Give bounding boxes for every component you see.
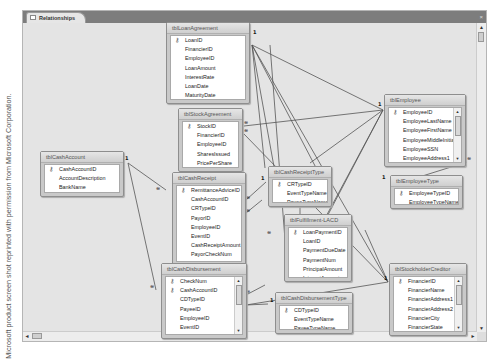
scroll-right-icon[interactable]: ► [469,332,477,340]
field-row[interactable]: CashDisbursementAmou [166,332,242,335]
field-row[interactable]: EventTypeName [280,315,348,324]
field-row[interactable]: FinancierAddress1 [394,295,462,304]
vertical-scrollbar[interactable]: ▲ ▼ [476,23,486,332]
field-row[interactable]: SharesIssued [183,150,238,159]
field-row[interactable]: BankName [45,183,119,192]
scroll-down-icon[interactable]: ▼ [235,327,242,334]
field-row[interactable]: ⚷LoanID [171,36,245,45]
scroll-thumb[interactable] [455,116,461,136]
field-row[interactable]: ⚷CheckNum [166,277,242,286]
field-row[interactable]: FinancierName [394,286,462,295]
field-row[interactable]: FinancierAddress2 [394,305,462,314]
field-list-scrollbar[interactable]: ▲ ▼ [234,277,242,334]
table-cash-account[interactable]: tblCashAccount ⚷CashAccountID AccountDes… [40,151,124,197]
field-row[interactable]: ⚷RemittanceAdviceID [177,186,241,195]
table-employee[interactable]: tblEmployee ⚷EmployeeID EmployeeLastName… [384,94,466,167]
scroll-down-icon[interactable]: ▼ [455,324,462,331]
field-row[interactable]: EmployeeID [166,314,242,323]
field-row[interactable]: FinancierCity [394,314,462,323]
scroll-down-icon[interactable]: ▼ [454,155,461,162]
table-fulfillment-lacd[interactable]: tblFulfillment-LACD ⚷LoanPaymentID LoanI… [284,214,352,282]
scroll-up-icon[interactable]: ▲ [235,277,242,284]
field-row[interactable]: ⚷LoanPaymentID [289,228,347,237]
table-loan-agreement[interactable]: tblLoanAgreement ⚷LoanID FinancierID Emp… [166,22,250,104]
table-title[interactable]: tblCashReceiptType [269,167,331,178]
field-row[interactable]: EmployeeAddress1 [389,154,461,163]
field-row[interactable]: FinancierState [394,323,462,332]
table-title[interactable]: tblCashDisbursementType [276,293,352,304]
field-row[interactable]: AccountDescription [45,174,119,183]
field-row[interactable]: InterestAmount [289,274,347,278]
field-row[interactable]: PaymentDueDate [289,246,347,255]
table-title[interactable]: tblCashAccount [41,152,123,163]
field-row[interactable]: EmployeeLastName [389,117,461,126]
field-row[interactable]: PayeeTypeName [273,198,327,203]
table-title[interactable]: tblStockAgreement [179,109,242,120]
field-row[interactable]: ⚷CashAccountID [45,165,119,174]
field-row[interactable]: LoanDate [171,82,245,91]
field-row[interactable]: EmployeeMiddleInitial [389,136,461,145]
table-cash-receipt-type[interactable]: tblCashReceiptType ⚷CRTypeID EventTypeNa… [268,166,332,207]
field-row[interactable]: PayeeTypeName [280,324,348,330]
scroll-down-icon[interactable]: ▼ [477,324,486,332]
field-row[interactable]: InterestRate [171,73,245,82]
table-title[interactable]: tblStockholderCreditor [390,264,466,275]
table-title[interactable]: tblEmployee [385,95,465,106]
field-row[interactable]: EventTypeName [273,189,327,198]
field-row[interactable]: EventID [177,232,241,241]
field-row[interactable]: ⚷FinancierID [394,277,462,286]
field-row[interactable]: PayorID [177,214,241,223]
table-title[interactable]: tblEmployeeType [391,176,462,187]
field-row[interactable]: ⚷EmployeeID [389,108,461,117]
field-row[interactable]: PaymentNum [289,256,347,265]
field-row[interactable]: EmployeeFirstName [389,126,461,135]
field-row[interactable]: PricePerShare [183,159,238,168]
field-row[interactable]: ⚷CDTypeID [280,306,348,315]
field-row[interactable]: CashAccountID [177,195,241,204]
field-row[interactable]: ⚷CRTypeID [273,180,327,189]
scroll-left-icon[interactable]: ◄ [23,332,31,340]
scroll-up-icon[interactable]: ▲ [454,108,461,115]
field-row[interactable]: LoanAmount [171,64,245,73]
field-row[interactable]: PayorCheckNum [177,250,241,259]
table-title[interactable]: tblLoanAgreement [167,23,249,34]
scroll-up-icon[interactable]: ▲ [455,277,462,284]
field-row[interactable]: CashReceiptDate [177,260,241,263]
field-row[interactable]: ⚷EmployeeTypeID [395,189,458,198]
field-row[interactable]: EmployeeSSN [389,145,461,154]
field-row[interactable]: EmployeeTypeName [395,198,458,205]
field-list-scrollbar[interactable]: ▲ ▼ [453,108,461,162]
field-row[interactable]: PrincipalAmount [289,265,347,274]
close-icon[interactable]: × [479,12,483,22]
table-cash-disbursement-type[interactable]: tblCashDisbursementType ⚷CDTypeID EventT… [275,292,353,334]
field-row[interactable]: EmployeeID [183,140,238,149]
table-cash-disbursement[interactable]: tblCashDisbursement ⚷CheckNum ⚷CashAccou… [161,263,247,339]
table-title[interactable]: tblCashDisbursement [162,264,246,275]
table-employee-type[interactable]: tblEmployeeType ⚷EmployeeTypeID Employee… [390,175,463,209]
field-list-scrollbar[interactable]: ▲ ▼ [454,277,462,331]
table-title[interactable]: tblCashReceipt [173,173,245,184]
field-row[interactable]: FinancierID [183,131,238,140]
scroll-thumb[interactable] [236,285,242,305]
field-row[interactable]: ⚷CashAccountID [166,286,242,295]
scroll-thumb-horizontal[interactable] [32,333,42,339]
field-row[interactable]: MaturityDate [171,91,245,100]
scroll-thumb[interactable] [478,32,484,42]
field-row[interactable]: LoanID [289,237,347,246]
field-row[interactable]: EmployeeID [171,54,245,63]
field-row[interactable]: PayeeID [166,305,242,314]
table-title[interactable]: tblFulfillment-LACD [285,215,351,226]
table-stockholder-creditor[interactable]: tblStockholderCreditor ⚷FinancierID Fina… [389,263,467,336]
field-row[interactable]: CDTypeID [166,295,242,304]
table-stock-agreement[interactable]: tblStockAgreement ⚷StockID FinancierID E… [178,108,243,172]
field-row[interactable]: ⚷StockID [183,122,238,131]
scroll-up-icon[interactable]: ▲ [477,23,486,31]
field-row[interactable]: CRTypeID [177,204,241,213]
scroll-thumb[interactable] [456,285,462,305]
table-cash-receipt[interactable]: tblCashReceipt ⚷RemittanceAdviceID CashA… [172,172,246,266]
field-row[interactable]: FinancierID [171,45,245,54]
field-row[interactable]: EventID [166,323,242,332]
field-row[interactable]: EmployeeID [177,223,241,232]
field-row[interactable]: CashReceiptAmount [177,241,241,250]
tab-relationships[interactable]: Relationships [26,12,86,23]
